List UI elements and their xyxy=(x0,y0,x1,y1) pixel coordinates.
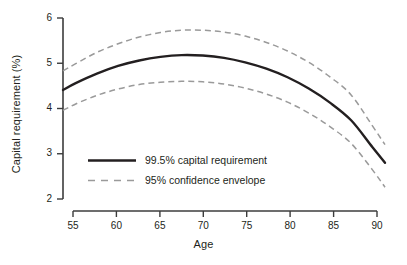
x-axis-title: Age xyxy=(0,238,407,250)
x-tick-label-60: 60 xyxy=(101,220,131,231)
x-tick-label-70: 70 xyxy=(188,220,218,231)
y-axis xyxy=(57,18,63,199)
y-axis-title: Capital requirement (%) xyxy=(10,44,22,184)
x-tick-label-85: 85 xyxy=(319,220,349,231)
x-tick-label-65: 65 xyxy=(145,220,175,231)
chart-figure: 6 5 4 3 2 55 60 65 70 75 80 85 90 Capita… xyxy=(0,0,407,265)
y-tick-label-5: 5 xyxy=(28,57,52,68)
x-tick-label-75: 75 xyxy=(232,220,262,231)
y-tick-label-2: 2 xyxy=(28,193,52,204)
x-axis xyxy=(73,211,377,217)
y-tick-label-3: 3 xyxy=(28,147,52,158)
x-tick-label-90: 90 xyxy=(362,220,392,231)
legend-keys xyxy=(88,161,136,181)
x-tick-label-80: 80 xyxy=(275,220,305,231)
y-tick-label-4: 4 xyxy=(28,102,52,113)
legend-label-capital-requirement: 99.5% capital requirement xyxy=(145,154,267,166)
x-tick-label-55: 55 xyxy=(58,220,88,231)
series-995-capital-requirement xyxy=(63,55,385,163)
y-tick-label-6: 6 xyxy=(28,12,52,23)
series-95-confidence-upper xyxy=(63,30,385,145)
series-95-confidence-lower xyxy=(63,81,385,187)
legend-label-confidence-envelope: 95% confidence envelope xyxy=(145,174,265,186)
